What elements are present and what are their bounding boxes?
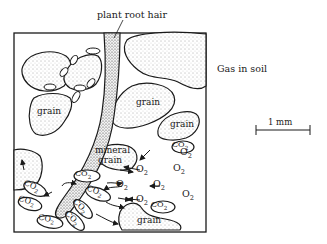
water-pocket xyxy=(74,85,86,91)
root-hair-label: plant root hair xyxy=(97,10,167,20)
mineral-grain-label: grain xyxy=(98,156,122,165)
o2-label: O2 xyxy=(116,179,128,192)
scale-bar-label: 1 mm xyxy=(268,118,292,127)
o2-label: O2 xyxy=(173,163,185,176)
co2-label: CO2 xyxy=(172,141,188,151)
grain-label: grain xyxy=(170,120,194,129)
co2-label: CO2 xyxy=(151,201,167,211)
co2-label: CO2 xyxy=(75,170,91,180)
o2-label: O2 xyxy=(182,189,194,202)
grain-label: grain xyxy=(137,216,161,225)
o2-label: O2 xyxy=(136,164,148,177)
grain-label: grain xyxy=(136,98,160,107)
water-pocket xyxy=(44,84,56,90)
o2-label: O2 xyxy=(136,194,148,207)
water-pocket xyxy=(86,48,100,54)
mineral-grain-label: mineral xyxy=(95,146,130,155)
diagram-title: Gas in soil xyxy=(217,64,267,74)
o2-label: O2 xyxy=(153,179,165,192)
grain-label: grain xyxy=(37,107,61,116)
